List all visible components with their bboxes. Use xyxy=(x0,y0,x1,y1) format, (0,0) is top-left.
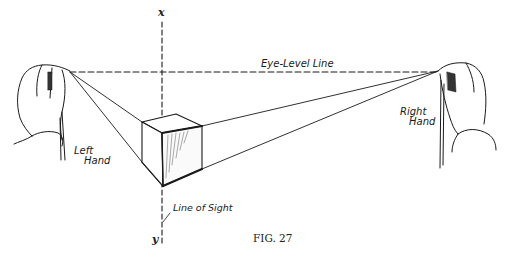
left-hand-label-line2: Hand xyxy=(84,155,111,166)
right-sight-line-bottom xyxy=(202,71,438,169)
left-sight-line-top xyxy=(70,72,142,122)
perspective-diagram: x y Eye-Level Line Left Hand Right Hand … xyxy=(0,0,513,257)
right-sight-line-top xyxy=(202,71,438,126)
left-hand-illustration xyxy=(14,65,70,160)
line-of-sight-label: Line of Sight xyxy=(173,202,234,213)
left-hand-thumb-shadow xyxy=(48,72,52,90)
axis-label-x: x xyxy=(157,6,165,19)
right-hand-thumb-shadow xyxy=(447,72,456,92)
figure-caption: FIG. 27 xyxy=(253,232,292,244)
line-of-sight-pointer xyxy=(163,213,170,222)
right-hand-illustration xyxy=(438,63,496,168)
cube-left-face xyxy=(142,122,163,186)
cube xyxy=(142,114,202,186)
eye-level-line-label: Eye-Level Line xyxy=(261,58,334,69)
axis-label-y: y xyxy=(151,233,160,246)
right-hand-label-line2: Hand xyxy=(409,116,436,127)
cube-front-vertical-edge xyxy=(162,133,163,186)
